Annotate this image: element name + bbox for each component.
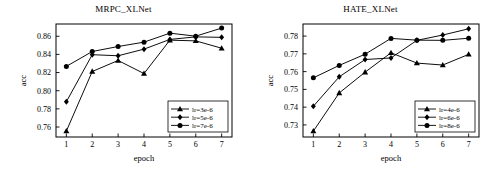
data-point-diamond-marker bbox=[64, 99, 69, 105]
x-tick-label: 6 bbox=[441, 140, 445, 149]
plot-area-hate: 0.730.740.750.760.770.781234567epochaccl… bbox=[247, 0, 494, 176]
y-tick-label: 0.78 bbox=[37, 105, 51, 114]
chart-panel-mrpc: MRPC_XLNet 0.760.780.800.820.840.8612345… bbox=[0, 0, 247, 176]
data-point-circle-marker bbox=[363, 52, 368, 57]
legend-label: lr=3e-6 bbox=[192, 106, 213, 114]
data-point-diamond-marker bbox=[440, 32, 445, 38]
chart-panel-hate: HATE_XLNet 0.730.740.750.760.770.7812345… bbox=[247, 0, 494, 176]
data-point-circle-marker bbox=[142, 40, 147, 45]
y-tick-label: 0.78 bbox=[284, 32, 298, 41]
x-tick-label: 1 bbox=[64, 140, 68, 149]
legend-label: lr=8e-6 bbox=[439, 122, 460, 130]
legend-label: lr=7e-6 bbox=[192, 122, 213, 130]
data-point-diamond-marker bbox=[466, 26, 471, 32]
data-point-circle-marker bbox=[311, 75, 316, 80]
x-tick-label: 5 bbox=[168, 140, 172, 149]
data-point-circle-marker bbox=[90, 49, 95, 54]
data-point-circle-marker bbox=[440, 38, 445, 43]
x-tick-label: 7 bbox=[467, 140, 471, 149]
data-point-triangle-marker bbox=[362, 69, 368, 74]
data-point-triangle-marker bbox=[63, 128, 69, 133]
y-tick-label: 0.82 bbox=[37, 68, 51, 77]
y-tick-label: 0.84 bbox=[37, 50, 51, 59]
data-point-triangle-marker bbox=[466, 51, 472, 56]
data-point-circle-marker bbox=[389, 36, 394, 41]
data-point-triangle-marker bbox=[336, 90, 342, 95]
x-tick-label: 5 bbox=[415, 140, 419, 149]
data-point-circle-marker bbox=[64, 64, 69, 69]
x-tick-label: 1 bbox=[311, 140, 315, 149]
data-point-diamond-marker bbox=[116, 53, 121, 59]
y-tick-label: 0.76 bbox=[37, 123, 51, 132]
data-point-circle-marker bbox=[219, 26, 224, 31]
data-point-circle-marker bbox=[193, 34, 198, 39]
legend-label: lr=6e-6 bbox=[439, 114, 460, 122]
x-axis-title: epoch bbox=[381, 153, 402, 163]
data-point-circle-marker bbox=[466, 36, 471, 41]
y-tick-label: 0.80 bbox=[37, 87, 51, 96]
y-tick-label: 0.77 bbox=[284, 50, 298, 59]
y-tick-label: 0.73 bbox=[284, 121, 298, 130]
x-tick-label: 7 bbox=[220, 140, 224, 149]
x-tick-label: 3 bbox=[363, 140, 367, 149]
legend-label: lr=5e-6 bbox=[192, 114, 213, 122]
data-point-diamond-marker bbox=[142, 46, 147, 52]
data-point-circle-marker bbox=[178, 123, 183, 128]
plot-svg-mrpc: 0.760.780.800.820.840.861234567epochaccl… bbox=[0, 0, 247, 176]
data-point-diamond-marker bbox=[219, 34, 224, 40]
y-axis-title: acc bbox=[18, 75, 28, 87]
x-tick-label: 2 bbox=[337, 140, 341, 149]
plot-area-mrpc: 0.760.780.800.820.840.861234567epochaccl… bbox=[0, 0, 247, 176]
data-point-triangle-marker bbox=[388, 50, 394, 55]
data-point-circle-marker bbox=[414, 38, 419, 43]
data-point-circle-marker bbox=[337, 63, 342, 68]
legend-label: lr=4e-6 bbox=[439, 106, 460, 114]
y-tick-label: 0.76 bbox=[284, 68, 298, 77]
y-tick-label: 0.86 bbox=[37, 32, 51, 41]
plot-svg-hate: 0.730.740.750.760.770.781234567epochaccl… bbox=[247, 0, 494, 176]
data-point-circle-marker bbox=[167, 31, 172, 36]
y-tick-label: 0.75 bbox=[284, 85, 298, 94]
x-tick-label: 6 bbox=[194, 140, 198, 149]
y-axis-title: acc bbox=[265, 75, 275, 87]
figure-two-line-charts: MRPC_XLNet 0.760.780.800.820.840.8612345… bbox=[0, 0, 494, 176]
y-tick-label: 0.74 bbox=[284, 103, 298, 112]
x-tick-label: 4 bbox=[389, 140, 393, 149]
data-point-circle-marker bbox=[425, 123, 430, 128]
data-point-diamond-marker bbox=[389, 55, 394, 61]
x-axis-title: epoch bbox=[134, 153, 155, 163]
x-tick-label: 2 bbox=[90, 140, 94, 149]
data-point-diamond-marker bbox=[363, 57, 368, 63]
x-tick-label: 3 bbox=[116, 140, 120, 149]
data-point-circle-marker bbox=[116, 44, 121, 49]
x-tick-label: 4 bbox=[142, 140, 146, 149]
